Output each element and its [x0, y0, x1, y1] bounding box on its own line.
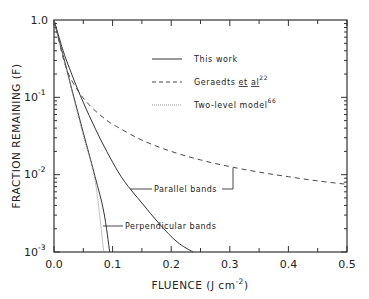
y-tick-label: 10 [24, 246, 38, 259]
x-tick-label: 0.0 [45, 258, 63, 271]
x-tick-label: 0.2 [162, 258, 180, 271]
chart-svg: 0.0 0.1 0.2 0.3 0.4 0.5 1.0 10 -1 10 -2 … [0, 0, 369, 299]
y-tick-exp: -2 [38, 165, 46, 174]
x-tick-label: 0.3 [221, 258, 239, 271]
annotation-parallel: Parallel bands [130, 168, 233, 194]
series-perpendicular-bands [54, 20, 110, 252]
series-two-level-model [54, 20, 104, 252]
y-tick-exp: -3 [38, 243, 46, 252]
y-tick-label: 10 [24, 168, 38, 181]
svg-text:Parallel bands: Parallel bands [154, 185, 217, 194]
legend-label-geraedts: Geraedts et al22 [194, 74, 268, 87]
x-tick-label: 0.5 [338, 258, 356, 271]
y-axis-title: FRACTION REMAINING (F) [10, 64, 22, 209]
legend: This work Geraedts et al22 Two-level mod… [152, 55, 276, 110]
x-axis-title: FLUENCE (J cm-2) [152, 277, 249, 291]
x-tick-label: 0.4 [280, 258, 298, 271]
y-tick-exp: -1 [38, 88, 46, 97]
svg-text:Perpendicular bands: Perpendicular bands [125, 222, 216, 231]
series-parallel-bands [54, 20, 193, 252]
y-tick-label: 10 [24, 91, 38, 104]
y-tick-label: 1.0 [31, 14, 49, 27]
annotation-perpendicular: Perpendicular bands [103, 222, 216, 231]
x-tick-label: 0.1 [104, 258, 122, 271]
legend-label-two-level: Two-level model66 [193, 97, 276, 110]
legend-label-this-work: This work [193, 55, 238, 64]
